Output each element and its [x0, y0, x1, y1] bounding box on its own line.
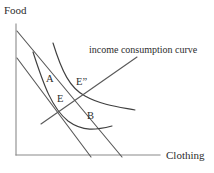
labels-group: Food Clothing income consumption curve A…: [4, 4, 205, 161]
figure-canvas: Food Clothing income consumption curve A…: [0, 0, 214, 173]
inner-budget-line: [17, 58, 91, 157]
point-label-a: A: [46, 73, 54, 84]
indifference-curve-figure: Food Clothing income consumption curve A…: [0, 0, 214, 173]
point-label-e-double-prime: E”: [76, 76, 87, 87]
income-consumption-curve-label: income consumption curve: [89, 44, 198, 55]
point-label-e: E: [57, 93, 63, 104]
x-axis-label: Clothing: [166, 149, 205, 161]
point-label-b: B: [87, 110, 94, 121]
y-axis-label: Food: [4, 4, 27, 16]
